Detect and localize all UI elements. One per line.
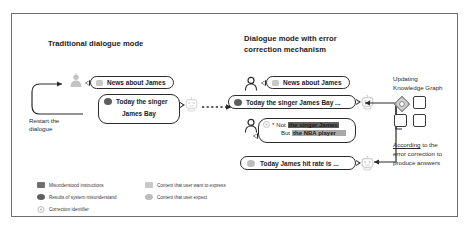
knowledge-graph-title: Updating Knowledge Graph — [393, 74, 443, 92]
right-user-bubble[interactable]: News about James — [266, 76, 350, 89]
correction-line2-prefix: But — [281, 130, 290, 136]
legend-label-2: Correction identifier — [49, 207, 89, 212]
correction-identifier-icon — [263, 121, 270, 128]
kg-caption-rest: to the — [421, 141, 438, 148]
legend-swatch-content-user-expect — [145, 194, 153, 200]
right-bot-bubble-text: Today the singer James Bay ... — [246, 99, 341, 106]
left-user-bubble-text: News about James — [107, 79, 166, 86]
answer-bubble-text: Today James hit rate is ... — [260, 160, 339, 167]
left-panel-title: Traditional dialogue mode — [48, 39, 143, 50]
right-title-line1: Dialogue mode with error — [244, 34, 337, 45]
kg-caption: According to the error correction to pro… — [393, 140, 442, 167]
person-icon — [244, 118, 258, 133]
person-icon — [69, 73, 83, 88]
restart-dialogue-label: Restart the dialogue — [29, 117, 59, 133]
correction-line1-highlight: the singer James — [288, 122, 339, 128]
content-user-expect-swatch — [247, 160, 255, 167]
system-misunderstand-swatch — [234, 99, 242, 106]
legend-item-0: Misunderstood instructions — [37, 182, 104, 188]
system-misunderstand-swatch — [104, 98, 112, 105]
legend-swatch-correction-identifier — [37, 206, 45, 213]
kg-caption-line2: error correction to — [393, 149, 442, 158]
restart-label-line1: Restart the — [29, 117, 59, 125]
legend-label-1: Results of system misunderstand — [49, 195, 117, 200]
right-user-bubble-tail — [261, 80, 266, 86]
legend-item-1: Results of system misunderstand — [37, 194, 117, 200]
left-user-bubble[interactable]: News about James — [90, 76, 174, 89]
person-icon — [244, 76, 258, 91]
correction-line2-highlight: the NBA player — [292, 130, 346, 136]
correction-bubble[interactable]: * Not the singer James But the NBA playe… — [258, 118, 356, 143]
correction-line1-prefix: Not — [276, 122, 285, 128]
kg-caption-line1: According to the — [393, 140, 442, 149]
right-title-line2: correction mechanism — [244, 45, 337, 56]
left-bot-bubble-line1: Today the singer — [116, 98, 168, 105]
legend-swatch-misunderstood-instructions — [37, 182, 45, 188]
kg-node-4 — [413, 114, 426, 127]
restart-label-line2: dialogue — [29, 125, 59, 133]
legend-label-3: Content that user want to express — [157, 183, 226, 188]
kg-title-line2: Knowledge Graph — [393, 83, 443, 92]
right-user-bubble-text: News about James — [283, 79, 342, 86]
left-bot-bubble[interactable]: Today the singer James Bay — [98, 94, 180, 124]
content-user-wants-swatch — [96, 80, 103, 86]
correction-bubble-tail — [253, 133, 258, 139]
answer-bubble[interactable]: Today James hit rate is ... — [240, 156, 356, 170]
highlighted-node-icon — [394, 96, 410, 112]
kg-caption-underlined: According — [393, 141, 421, 148]
robot-icon — [185, 97, 198, 112]
figure-frame: Traditional dialogue mode Restart the di… — [11, 13, 458, 217]
kg-node-3 — [394, 114, 407, 127]
legend-item-3: Content that user want to express — [145, 182, 226, 188]
kg-node-2 — [413, 96, 426, 109]
legend-label-4: Content that user expect — [157, 195, 207, 200]
legend-label-0: Misunderstood instructions — [49, 183, 104, 188]
legend-swatch-content-user-wants — [145, 182, 153, 188]
left-user-bubble-tail — [85, 80, 90, 86]
correction-marker: * — [272, 122, 274, 128]
content-user-wants-swatch — [272, 80, 279, 86]
right-bot-bubble[interactable]: Today the singer James Bay ... — [228, 95, 356, 109]
kg-caption-line3: produce answers — [393, 158, 442, 167]
legend-item-2: Correction identifier — [37, 206, 89, 213]
legend-item-4: Content that user expect — [145, 194, 207, 200]
right-panel-title: Dialogue mode with error correction mech… — [244, 34, 337, 55]
kg-title-line1: Updating — [393, 74, 443, 83]
legend-swatch-system-misunderstand — [37, 194, 45, 200]
left-bot-bubble-line2: James Bay — [99, 110, 179, 117]
